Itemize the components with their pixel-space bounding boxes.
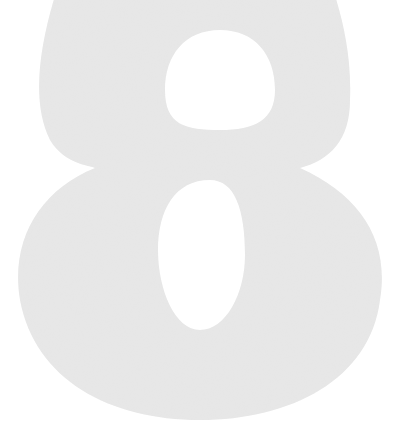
numeral-eight-glyph bbox=[0, 0, 395, 432]
